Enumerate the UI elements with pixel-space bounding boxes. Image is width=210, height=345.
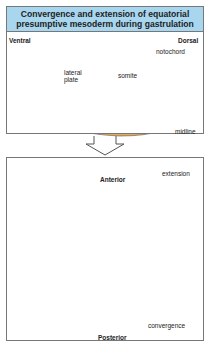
title-line-2: presumptive mesoderm during gastrulation [10,19,200,29]
title-line-1: Convergence and extension of equatorial [10,9,200,19]
ventral-label: Ventral [9,37,31,44]
somite-label: somite [118,72,137,79]
down-arrow-icon [86,136,124,155]
posterior-label: Posterior [98,334,127,341]
lateral-plate-label-2: plate [64,76,78,83]
convergence-label: convergence [148,322,185,329]
notochord-label: notochord [156,48,185,55]
lateral-plate-label-1: lateral [64,69,82,76]
dorsal-label: Dorsal [178,37,198,44]
bottom-panel [6,157,204,341]
anterior-label: Anterior [100,176,125,183]
midline-label: midline [175,128,196,135]
extension-label: extension [162,170,190,177]
figure-title: Convergence and extension of equatorial … [7,7,203,32]
top-panel: Convergence and extension of equatorial … [6,6,204,134]
